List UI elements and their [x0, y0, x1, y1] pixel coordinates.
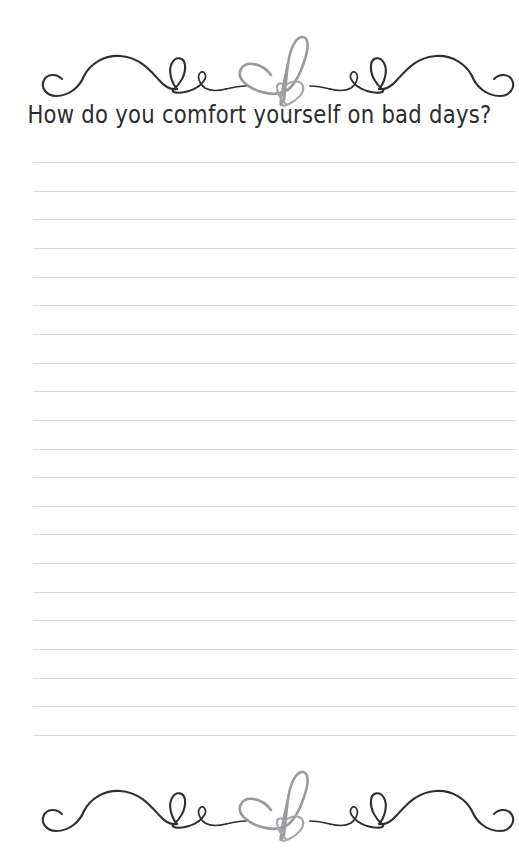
left-heart-connector: [226, 821, 246, 824]
writing-line[interactable]: [33, 248, 516, 249]
writing-line[interactable]: [33, 563, 516, 564]
right-tall-loop: [367, 793, 386, 827]
left-tall-loop: [170, 793, 189, 827]
writing-line[interactable]: [33, 391, 516, 392]
writing-line[interactable]: [33, 449, 516, 450]
writing-line[interactable]: [33, 592, 516, 593]
writing-line[interactable]: [33, 420, 516, 421]
writing-line[interactable]: [33, 506, 516, 507]
writing-lines-area[interactable]: [0, 0, 519, 862]
right-sweep-curve: [379, 791, 472, 824]
writing-line[interactable]: [33, 162, 516, 163]
footer-flourish-ornament: [0, 757, 519, 849]
left-small-loop: [189, 807, 226, 826]
writing-line[interactable]: [33, 649, 516, 650]
writing-line[interactable]: [33, 678, 516, 679]
right-spiral-curl-icon: [472, 810, 513, 831]
writing-line[interactable]: [33, 305, 516, 306]
writing-line[interactable]: [33, 477, 516, 478]
left-sweep-curve: [84, 791, 177, 824]
writing-line[interactable]: [33, 219, 516, 220]
writing-line[interactable]: [33, 534, 516, 535]
writing-line[interactable]: [33, 277, 516, 278]
writing-line[interactable]: [33, 334, 516, 335]
large-heart-icon: [240, 772, 308, 835]
right-heart-connector: [310, 821, 330, 824]
writing-line[interactable]: [33, 191, 516, 192]
writing-line[interactable]: [33, 735, 516, 736]
writing-line[interactable]: [33, 363, 516, 364]
left-spiral-curl-icon: [43, 810, 84, 831]
writing-line[interactable]: [33, 706, 516, 707]
writing-line[interactable]: [33, 620, 516, 621]
journal-prompt-page: How do you comfort yourself on bad days?: [0, 0, 519, 862]
right-small-loop: [330, 807, 367, 826]
